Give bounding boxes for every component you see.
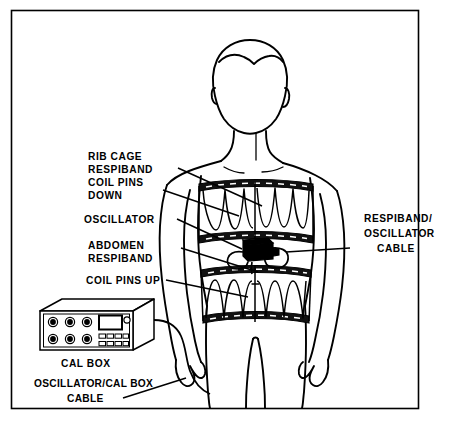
cal-box-button[interactable]: [99, 334, 106, 338]
oscillator-to-abdomen-cable: [251, 262, 252, 274]
label-oscillator-cal-box-cable-line1: OSCILLATOR/CAL BOX: [34, 378, 153, 389]
label-respiband-oscillator-cable-line2: OSCILLATOR: [364, 228, 435, 239]
cal-box-indicator-light: [124, 317, 130, 323]
cal-box-button[interactable]: [107, 334, 114, 338]
cal-box-button[interactable]: [107, 342, 114, 346]
cal-box-knob-cap: [50, 336, 56, 342]
label-coil-pins-up: COIL PINS UP: [86, 275, 160, 286]
oscillator-body-front: [248, 243, 273, 261]
cal-box-button[interactable]: [115, 334, 122, 338]
cal-box-knob-row-bottom: [48, 334, 91, 343]
label-abdomen-respiband-line2: RESPIBAND: [88, 253, 153, 264]
label-abdomen-respiband-line1: ABDOMEN: [88, 240, 144, 251]
cal-box-display-panel: [99, 316, 122, 330]
cal-box-knob-cap: [84, 319, 90, 325]
label-rib-cage-respiband-line2: RESPIBAND: [88, 164, 153, 175]
label-respiband-oscillator-cable-line1: RESPIBAND/: [364, 213, 432, 224]
cal-box-button-row-bottom: [99, 342, 129, 346]
label-cal-box: CAL BOX: [61, 358, 111, 369]
cal-box-knob-row-top: [48, 317, 91, 326]
cal-box-knob-cap: [67, 336, 73, 342]
cal-box-knob-cap: [84, 336, 90, 342]
label-oscillator: OSCILLATOR: [84, 214, 155, 225]
cal-box-unit: [40, 299, 154, 350]
oscillator-connector: [273, 248, 279, 256]
rip-placement-diagram: RIB CAGE RESPIBAND COIL PINS DOWN OSCILL…: [0, 0, 471, 431]
cal-box-knob-cap: [67, 319, 73, 325]
label-rib-cage-respiband-line1: RIB CAGE: [88, 151, 142, 162]
figure-container: RIB CAGE RESPIBAND COIL PINS DOWN OSCILL…: [0, 0, 471, 431]
cal-box-button[interactable]: [123, 334, 129, 338]
label-oscillator-cal-box-cable-line2: CABLE: [67, 393, 104, 404]
cal-box-button[interactable]: [115, 342, 122, 346]
label-coil-pins-down-line2: DOWN: [88, 190, 122, 201]
label-respiband-oscillator-cable-line3: CABLE: [377, 243, 415, 254]
cal-box-button[interactable]: [123, 342, 129, 346]
cal-box-button-row-top: [99, 334, 129, 338]
cal-box-button[interactable]: [99, 342, 106, 346]
label-coil-pins-down-line1: COIL PINS: [88, 177, 144, 188]
cal-box-knob-cap: [50, 319, 56, 325]
